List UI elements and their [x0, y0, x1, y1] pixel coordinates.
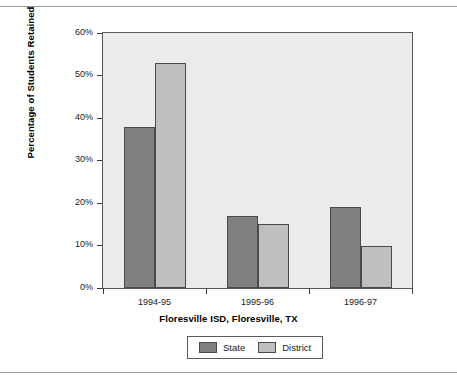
x-axis-title: Floresville ISD, Floresville, TX	[0, 313, 457, 324]
legend-label: District	[282, 342, 311, 353]
x-tick-mark	[103, 288, 104, 294]
y-tick-label: 50%	[47, 69, 93, 79]
chart-figure: Percentage of Students Retained 0%10%20%…	[0, 0, 457, 386]
legend-swatch-district	[258, 342, 276, 353]
y-tick-label: 10%	[47, 239, 93, 249]
y-tick-mark	[97, 245, 102, 246]
x-tick-mark	[412, 288, 413, 294]
bar-group	[309, 33, 412, 288]
legend-item-state: State	[199, 342, 245, 353]
y-tick-mark	[97, 33, 102, 34]
y-tick-mark	[97, 203, 102, 204]
legend-swatch-state	[199, 342, 217, 353]
x-tick-label: 1995-96	[203, 297, 313, 307]
legend-item-district: District	[258, 342, 311, 353]
x-tick-mark	[206, 288, 207, 294]
y-tick-mark	[97, 118, 102, 119]
y-axis-title: Percentage of Students Retained	[25, 0, 36, 173]
chart-legend: StateDistrict	[187, 336, 323, 359]
bar-state-1994-95	[124, 127, 155, 289]
top-divider-rule	[0, 6, 457, 7]
bar-district-1996-97	[361, 246, 392, 289]
y-tick-label: 40%	[47, 112, 93, 122]
x-tick-label: 1994-95	[100, 297, 210, 307]
bar-district-1995-96	[258, 224, 289, 288]
bars-layer	[103, 33, 412, 288]
y-tick-mark	[97, 288, 102, 289]
y-tick-label: 20%	[47, 197, 93, 207]
bar-state-1996-97	[330, 207, 361, 288]
y-tick-mark	[97, 75, 102, 76]
y-tick-label: 0%	[47, 282, 93, 292]
x-tick-mark	[309, 288, 310, 294]
y-tick-label: 30%	[47, 154, 93, 164]
y-tick-mark	[97, 160, 102, 161]
bar-state-1995-96	[227, 216, 258, 288]
legend-label: State	[223, 342, 245, 353]
bar-group	[103, 33, 206, 288]
bar-district-1994-95	[155, 63, 186, 288]
y-tick-label: 60%	[47, 27, 93, 37]
bar-group	[206, 33, 309, 288]
x-tick-label: 1996-97	[306, 297, 416, 307]
bottom-divider-rule	[0, 372, 457, 373]
